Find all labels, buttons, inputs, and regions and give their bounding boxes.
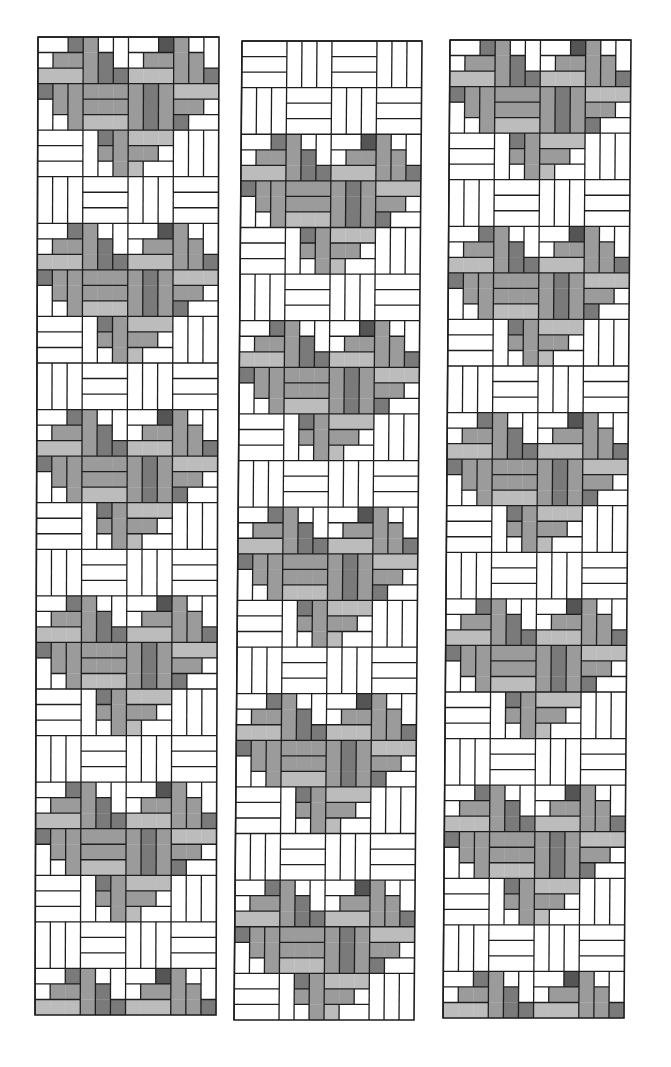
right-strip: [443, 40, 631, 1018]
right-strip-graphic: [443, 40, 631, 1018]
left-strip-graphic: [35, 37, 219, 1015]
middle-strip: [234, 41, 422, 1020]
middle-strip-graphic: [234, 41, 422, 1020]
left-strip: [35, 37, 219, 1015]
